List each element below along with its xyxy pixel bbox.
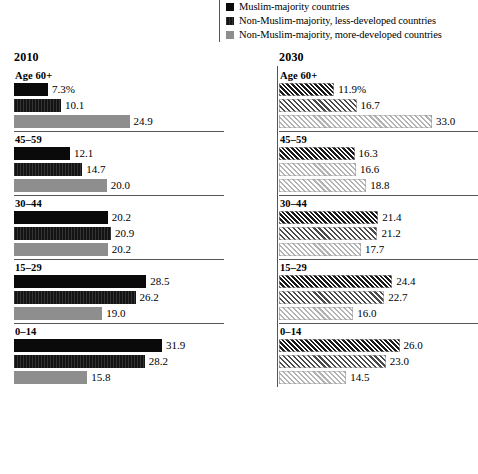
bar-row: 16.7	[279, 99, 478, 112]
age-group: 45–59 16.3 16.6 18.8	[279, 131, 478, 192]
bar-nonmuslim-less-developed	[279, 99, 357, 112]
bar-value-label: 20.2	[112, 211, 131, 224]
bar-nonmuslim-more-developed	[279, 307, 353, 320]
bar-row: 26.0	[279, 339, 478, 352]
bar-nonmuslim-more-developed	[14, 179, 107, 192]
bar-value-label: 19.0	[106, 307, 125, 320]
bar-muslim-majority	[279, 211, 378, 224]
age-group: 45–59 12.1 14.7 20.0	[14, 131, 224, 192]
bar-value-label: 20.9	[115, 227, 134, 240]
age-group-label: 30–44	[279, 195, 478, 211]
chart-panel-2010: 2010 Age 60+ 7.3% 10.1 24.9 45–59 12.1 1…	[14, 50, 224, 387]
bar-row: 20.2	[14, 211, 224, 224]
age-group-label: Age 60+	[279, 68, 478, 83]
bar-value-label: 10.1	[65, 99, 84, 112]
bar-value-label: 14.7	[86, 163, 105, 176]
bar-nonmuslim-less-developed	[279, 227, 377, 240]
age-group-label: 30–44	[14, 195, 224, 211]
bar-value-label: 22.7	[388, 291, 407, 304]
bar-muslim-majority	[279, 83, 334, 96]
bar-row: 16.6	[279, 163, 478, 176]
bar-nonmuslim-less-developed	[14, 291, 136, 304]
value-axis-line	[277, 66, 278, 387]
bar-row: 18.8	[279, 179, 478, 192]
bar-nonmuslim-less-developed	[279, 163, 356, 176]
age-group: 15–29 24.4 22.7 16.0	[279, 259, 478, 320]
bar-value-label: 14.5	[350, 371, 369, 384]
age-group-label: 45–59	[279, 131, 478, 147]
legend-item-label: Muslim-majority countries	[239, 1, 349, 12]
bar-muslim-majority	[14, 339, 162, 352]
bar-row: 24.4	[279, 275, 478, 288]
bar-value-label: 28.5	[150, 275, 169, 288]
bar-row: 28.5	[14, 275, 224, 288]
legend-item-label: Non-Muslim-majority, less-developed coun…	[239, 15, 436, 26]
bar-row: 26.2	[14, 291, 224, 304]
bar-value-label: 24.9	[134, 115, 153, 128]
bar-row: 16.3	[279, 147, 478, 160]
bar-row: 7.3%	[14, 83, 224, 96]
bar-row: 17.7	[279, 243, 478, 256]
bar-value-label: 20.0	[111, 179, 130, 192]
age-group-label: 45–59	[14, 131, 224, 147]
bar-row: 21.2	[279, 227, 478, 240]
bar-row: 33.0	[279, 115, 478, 128]
bar-muslim-majority	[279, 339, 400, 352]
bar-row: 28.2	[14, 355, 224, 368]
bar-row: 20.0	[14, 179, 224, 192]
chart-panel-2030: 2030 Age 60+ 11.9% 16.7 33.0 45–59 16.3 …	[279, 50, 478, 387]
bar-nonmuslim-less-developed	[14, 99, 61, 112]
bar-nonmuslim-more-developed	[279, 243, 361, 256]
bar-muslim-majority	[14, 275, 146, 288]
bar-value-label: 26.0	[404, 339, 423, 352]
bar-muslim-majority	[14, 211, 108, 224]
bar-row: 23.0	[279, 355, 478, 368]
bar-nonmuslim-more-developed	[14, 371, 87, 384]
bar-value-label: 12.1	[74, 147, 93, 160]
bar-row: 12.1	[14, 147, 224, 160]
age-group: 15–29 28.5 26.2 19.0	[14, 259, 224, 320]
bar-muslim-majority	[279, 275, 392, 288]
square-swatch-icon	[226, 31, 234, 39]
bar-nonmuslim-more-developed	[14, 307, 102, 320]
bar-row: 10.1	[14, 99, 224, 112]
legend-item: Non-Muslim-majority, more-developed coun…	[226, 28, 478, 41]
bar-value-label: 16.6	[360, 163, 379, 176]
age-group-label: 0–14	[279, 323, 478, 339]
bar-nonmuslim-less-developed	[14, 355, 145, 368]
bar-row: 14.7	[14, 163, 224, 176]
bar-muslim-majority	[279, 147, 355, 160]
bar-nonmuslim-less-developed	[279, 355, 386, 368]
age-group: 30–44 20.2 20.9 20.2	[14, 195, 224, 256]
legend-item-label: Non-Muslim-majority, more-developed coun…	[239, 29, 442, 40]
bar-row: 21.4	[279, 211, 478, 224]
bar-row: 20.2	[14, 243, 224, 256]
bar-value-label: 15.8	[91, 371, 110, 384]
bar-value-label: 23.0	[390, 355, 409, 368]
bar-row: 22.7	[279, 291, 478, 304]
bar-value-label: 21.2	[381, 227, 400, 240]
bar-value-label: 33.0	[436, 115, 455, 128]
age-group-label: 15–29	[14, 259, 224, 275]
bar-nonmuslim-more-developed	[279, 115, 432, 128]
age-group-label: Age 60+	[14, 68, 224, 83]
bar-value-label: 24.4	[396, 275, 415, 288]
bar-value-label: 18.8	[370, 179, 389, 192]
bar-row: 15.8	[14, 371, 224, 384]
bar-row: 31.9	[14, 339, 224, 352]
bar-row: 24.9	[14, 115, 224, 128]
age-group-label: 0–14	[14, 323, 224, 339]
bar-nonmuslim-more-developed	[279, 371, 346, 384]
bar-value-label: 26.2	[140, 291, 159, 304]
panel-title: 2010	[14, 50, 224, 65]
bar-value-label: 16.7	[361, 99, 380, 112]
legend-item: Non-Muslim-majority, less-developed coun…	[226, 14, 478, 27]
bar-row: 19.0	[14, 307, 224, 320]
bar-muslim-majority	[14, 83, 48, 96]
bar-value-label: 31.9	[166, 339, 185, 352]
bar-value-label: 17.7	[365, 243, 384, 256]
bar-value-label: 16.3	[359, 147, 378, 160]
bar-row: 16.0	[279, 307, 478, 320]
bar-nonmuslim-more-developed	[279, 179, 366, 192]
bar-row: 14.5	[279, 371, 478, 384]
